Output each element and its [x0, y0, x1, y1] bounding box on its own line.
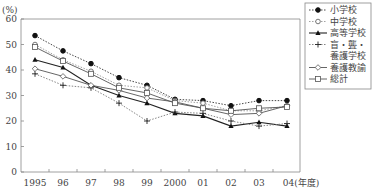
- filled-circle-marker: [229, 103, 234, 108]
- series-line: [35, 47, 287, 111]
- x-tick-label: 99: [141, 178, 153, 188]
- y-tick-label: 40: [6, 65, 18, 75]
- series-group: [32, 33, 290, 129]
- x-tick-label: 98: [113, 178, 125, 188]
- filled-triangle-marker: [32, 57, 37, 62]
- x-tick-label: 03: [253, 178, 265, 188]
- x-tick-label: 96: [57, 178, 69, 188]
- series-0: [33, 33, 290, 108]
- open-circle-marker: [316, 19, 321, 24]
- x-tick-label: 1995: [24, 178, 47, 188]
- open-square-marker: [117, 85, 122, 90]
- x-tick-label: 01: [197, 178, 208, 188]
- legend-label: 高等学校: [330, 27, 366, 38]
- x-tick-label: 97: [85, 178, 97, 188]
- legend-label: 盲・聾・: [330, 39, 366, 50]
- open-square-marker: [173, 101, 178, 106]
- y-tick-label: 50: [6, 40, 18, 50]
- x-tick-label: 04(年度): [283, 177, 319, 188]
- open-square-marker: [89, 71, 94, 76]
- y-tick-label: 30: [6, 91, 18, 101]
- legend-label: 中学校: [330, 16, 357, 27]
- x-tick-label: 02: [225, 178, 236, 188]
- open-square-marker: [61, 59, 66, 64]
- y-tick-label: 20: [6, 116, 18, 126]
- open-diamond-marker: [32, 66, 38, 72]
- legend: 小学校中学校高等学校盲・聾・養護学校養護教諭総計: [305, 3, 371, 89]
- open-diamond-marker: [144, 95, 150, 101]
- filled-circle-marker: [89, 61, 94, 66]
- series-4: [32, 66, 290, 118]
- y-tick-label: 10: [6, 142, 18, 152]
- line-chart: (%) 010203040506019959697989920000102030…: [0, 0, 374, 196]
- open-square-marker: [201, 106, 206, 111]
- legend-label: 養護学校: [330, 50, 366, 61]
- legend-label: 養護教諭: [330, 62, 366, 73]
- open-circle-marker: [145, 86, 150, 91]
- legend-label: 小学校: [330, 4, 357, 15]
- filled-circle-marker: [257, 98, 262, 103]
- y-tick-label: 60: [6, 14, 18, 24]
- filled-circle-marker: [316, 8, 321, 13]
- x-tick-label: 2000: [164, 178, 187, 188]
- filled-circle-marker: [117, 75, 122, 80]
- series-line: [35, 45, 287, 111]
- y-tick-label: 0: [11, 167, 17, 177]
- open-circle-marker: [201, 101, 206, 106]
- open-diamond-marker: [60, 74, 66, 80]
- legend-label: 総計: [330, 73, 348, 84]
- series-1: [33, 42, 290, 113]
- open-square-marker: [145, 90, 150, 95]
- filled-circle-marker: [61, 49, 66, 54]
- open-square-marker: [257, 106, 262, 111]
- open-square-marker: [316, 77, 321, 82]
- open-square-marker: [33, 45, 38, 50]
- filled-circle-marker: [285, 98, 290, 103]
- open-square-marker: [229, 108, 234, 113]
- filled-circle-marker: [33, 33, 38, 38]
- open-square-marker: [285, 104, 290, 109]
- series-line: [35, 36, 287, 106]
